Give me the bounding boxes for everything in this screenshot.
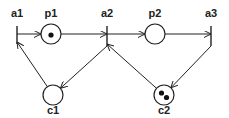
place-label: p2: [149, 7, 162, 19]
arc-c2-to-a2: [107, 44, 157, 88]
token: [159, 90, 164, 95]
transition-a2[interactable]: a2: [101, 7, 113, 46]
nodes-layer: a1a2a3p1p2c1c2: [11, 7, 217, 116]
place-p1[interactable]: p1: [41, 7, 61, 44]
transition-label: a3: [205, 7, 217, 19]
arc-a3-to-c2: [171, 46, 211, 88]
token: [164, 95, 169, 100]
place-circle[interactable]: [145, 24, 165, 44]
transition-a3[interactable]: a3: [205, 7, 217, 46]
place-label: c1: [47, 104, 59, 116]
place-label: p1: [45, 7, 58, 19]
place-c2[interactable]: c2: [154, 85, 174, 116]
transition-a1[interactable]: a1: [11, 7, 23, 44]
transition-label: a2: [101, 7, 113, 19]
token: [48, 32, 53, 37]
place-circle[interactable]: [43, 85, 63, 105]
arc-c1-to-a1: [17, 42, 47, 87]
place-label: c2: [158, 104, 170, 116]
place-circle[interactable]: [154, 85, 174, 105]
place-c1[interactable]: c1: [43, 85, 63, 116]
arc-a2-to-c1: [60, 46, 107, 88]
transition-label: a1: [11, 7, 23, 19]
place-p2[interactable]: p2: [145, 7, 165, 44]
petri-net-diagram: a1a2a3p1p2c1c2: [0, 0, 229, 118]
